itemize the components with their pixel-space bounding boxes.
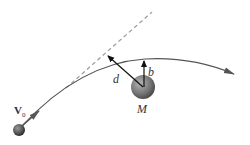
- distance-d-label: d: [113, 72, 119, 87]
- velocity-subscript: 0: [22, 111, 26, 119]
- deflection-diagram: V0 d b M: [0, 0, 250, 145]
- velocity-symbol: V: [14, 104, 22, 116]
- impact-parameter-b-label: b: [148, 65, 154, 80]
- trajectory-curve: [22, 59, 234, 126]
- diagram-svg: [0, 0, 250, 145]
- mass-M-label: M: [137, 102, 147, 117]
- small-ball: [13, 124, 25, 136]
- velocity-label: V0: [14, 104, 25, 116]
